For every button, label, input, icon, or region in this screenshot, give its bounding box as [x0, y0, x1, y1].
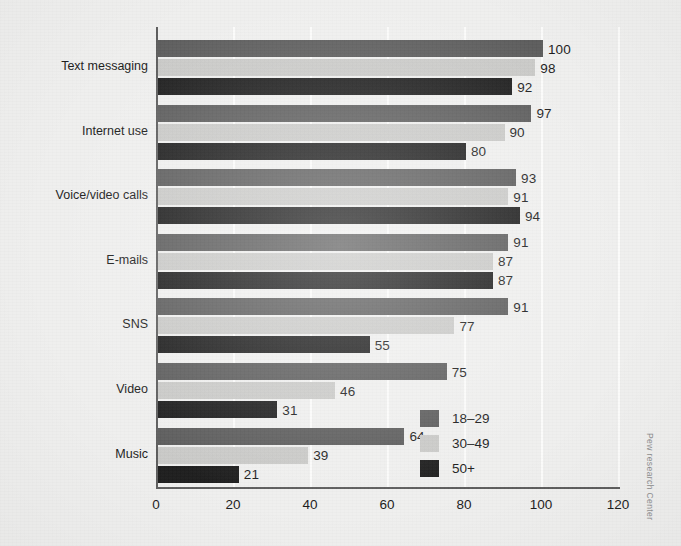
bar-value-label: 100 — [548, 41, 571, 56]
bar-row: 92 — [158, 78, 620, 95]
bar-value-label: 87 — [498, 273, 513, 288]
bar-value-label: 55 — [375, 337, 390, 352]
x-tick-label: 120 — [607, 497, 630, 512]
category-label: Music — [115, 447, 148, 461]
chart-page: 1009892979080939194918787917755754631643… — [0, 0, 681, 546]
bar-value-label: 91 — [513, 189, 528, 204]
bar-group: 643921 — [158, 428, 620, 485]
bar-row: 87 — [158, 272, 620, 289]
legend-label: 18–29 — [452, 411, 490, 426]
bar-group: 754631 — [158, 363, 620, 420]
bar-value-label: 87 — [498, 254, 513, 269]
legend-label: 30–49 — [452, 436, 490, 451]
legend: 18–2930–4950+ — [420, 406, 490, 481]
legend-item[interactable]: 50+ — [420, 456, 490, 481]
legend-swatch — [420, 410, 439, 427]
category-label: Internet use — [82, 124, 148, 138]
bar[interactable] — [158, 188, 508, 205]
bar-row: 80 — [158, 143, 620, 160]
bar-row: 55 — [158, 336, 620, 353]
legend-item[interactable]: 30–49 — [420, 431, 490, 456]
bar-value-label: 93 — [521, 170, 536, 185]
bar-value-label: 90 — [510, 125, 525, 140]
x-tick-label: 40 — [302, 497, 317, 512]
category-label: Voice/video calls — [56, 188, 148, 202]
bar-row: 97 — [158, 105, 620, 122]
bar[interactable] — [158, 298, 508, 315]
x-axis-line — [156, 487, 620, 489]
x-tick-label: 100 — [530, 497, 553, 512]
bar-row: 77 — [158, 317, 620, 334]
bar-group: 917755 — [158, 298, 620, 355]
bar-row: 91 — [158, 298, 620, 315]
category-label: Text messaging — [61, 59, 148, 73]
bar[interactable] — [158, 317, 454, 334]
bar-value-label: 46 — [340, 383, 355, 398]
bar[interactable] — [158, 169, 516, 186]
bar-value-label: 91 — [513, 299, 528, 314]
bar-row: 91 — [158, 188, 620, 205]
bar[interactable] — [158, 401, 277, 418]
x-tick-label: 20 — [225, 497, 240, 512]
bar[interactable] — [158, 40, 543, 57]
bar[interactable] — [158, 363, 447, 380]
bar[interactable] — [158, 59, 535, 76]
bar[interactable] — [158, 336, 370, 353]
bar-group: 939194 — [158, 169, 620, 226]
bar-value-label: 39 — [313, 448, 328, 463]
bar[interactable] — [158, 124, 505, 141]
bar-row: 64 — [158, 428, 620, 445]
bar-row: 94 — [158, 207, 620, 224]
bar[interactable] — [158, 143, 466, 160]
bar-row: 39 — [158, 447, 620, 464]
x-tick-label: 80 — [456, 497, 471, 512]
bar[interactable] — [158, 272, 493, 289]
x-tick-label: 60 — [379, 497, 394, 512]
bar-value-label: 98 — [540, 60, 555, 75]
bar[interactable] — [158, 207, 520, 224]
legend-label: 50+ — [452, 461, 475, 476]
bar-value-label: 31 — [282, 402, 297, 417]
bar-value-label: 92 — [517, 79, 532, 94]
bar-row: 93 — [158, 169, 620, 186]
x-tick-label: 0 — [152, 497, 160, 512]
bar-group: 918787 — [158, 234, 620, 291]
legend-swatch — [420, 460, 439, 477]
legend-swatch — [420, 435, 439, 452]
category-label: Video — [116, 382, 148, 396]
bar[interactable] — [158, 234, 508, 251]
bar[interactable] — [158, 382, 335, 399]
bar-row: 75 — [158, 363, 620, 380]
bar-row: 90 — [158, 124, 620, 141]
bar-value-label: 77 — [459, 318, 474, 333]
bar-group: 1009892 — [158, 40, 620, 97]
category-label: SNS — [122, 317, 148, 331]
bar[interactable] — [158, 447, 308, 464]
bar[interactable] — [158, 78, 512, 95]
bar[interactable] — [158, 428, 404, 445]
bar-group: 979080 — [158, 105, 620, 162]
bar-value-label: 75 — [452, 364, 467, 379]
bar-row: 98 — [158, 59, 620, 76]
bar-row: 87 — [158, 253, 620, 270]
legend-item[interactable]: 18–29 — [420, 406, 490, 431]
bar-row: 31 — [158, 401, 620, 418]
source-credit: Pew research Center — [645, 433, 655, 520]
bar-row: 21 — [158, 466, 620, 483]
bar[interactable] — [158, 253, 493, 270]
bar-value-label: 21 — [244, 467, 259, 482]
bar-row: 91 — [158, 234, 620, 251]
bar-value-label: 91 — [513, 235, 528, 250]
bar-value-label: 80 — [471, 144, 486, 159]
bar[interactable] — [158, 466, 239, 483]
bar-row: 100 — [158, 40, 620, 57]
plot-area: 1009892979080939194918787917755754631643… — [156, 27, 620, 489]
bar-value-label: 97 — [536, 106, 551, 121]
bar-value-label: 94 — [525, 208, 540, 223]
bar[interactable] — [158, 105, 531, 122]
category-label: E-mails — [106, 253, 148, 267]
bar-row: 46 — [158, 382, 620, 399]
